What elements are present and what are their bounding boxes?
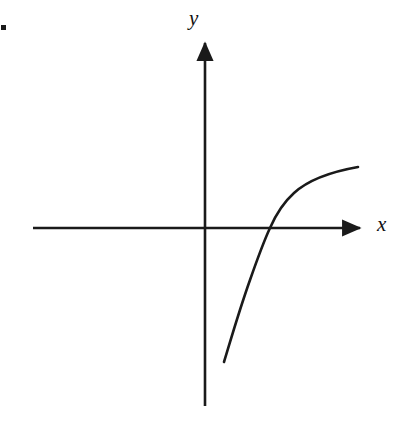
y-axis-label: y [189,8,198,29]
x-axis-label: x [377,214,386,235]
function-curve [224,167,358,362]
coordinate-plot [0,0,414,432]
math-figure: y x [0,0,414,432]
